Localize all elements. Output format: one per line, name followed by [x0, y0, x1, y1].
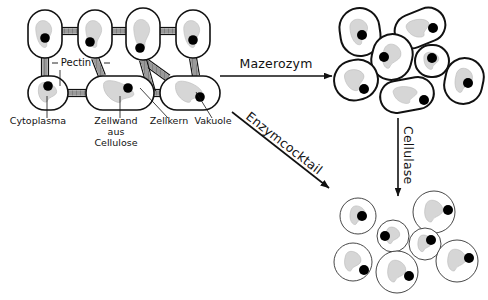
- plant-tissue-group: [28, 8, 220, 110]
- label-zellwand2: aus: [108, 126, 125, 137]
- protoplast: [377, 220, 409, 252]
- separated-cells-group: [330, 2, 488, 115]
- arrow-enzymcocktail[interactable]: Enzymcocktail: [232, 109, 329, 188]
- protoplast: [340, 198, 376, 234]
- protoplast-isolation-diagram: MazerozymEnzymcocktailCellulase PectinCy…: [0, 0, 488, 300]
- nucleus: [428, 23, 438, 33]
- label-zellkern: Zellkern: [150, 115, 188, 126]
- protoplast: [436, 240, 478, 282]
- tissue-cell: [176, 10, 210, 58]
- nucleus: [135, 43, 145, 53]
- tissue-cell: [126, 8, 160, 60]
- nucleus: [419, 95, 429, 105]
- arrow-line-enzymcocktail: [232, 112, 329, 188]
- nucleus: [380, 231, 390, 241]
- nucleus: [404, 271, 414, 281]
- label-zellwand3: Cellulose: [94, 137, 137, 148]
- nucleus: [359, 265, 369, 275]
- arrow-label-mazerozym: Mazerozym: [239, 56, 312, 71]
- tissue-cell: [160, 76, 220, 110]
- nucleus: [188, 35, 198, 45]
- diagram-canvas: MazerozymEnzymcocktailCellulase PectinCy…: [0, 0, 488, 300]
- arrow-cellulase[interactable]: Cellulase: [398, 118, 416, 196]
- tissue-cell: [78, 10, 112, 58]
- tissue-cell: [28, 10, 62, 58]
- pectin-layer: [193, 58, 196, 76]
- protoplast: [413, 191, 455, 233]
- nucleus: [379, 52, 389, 62]
- nucleus: [40, 33, 50, 43]
- nucleus: [357, 211, 367, 221]
- nucleus: [463, 78, 473, 88]
- protoplast: [334, 243, 372, 281]
- pectin-layer: [95, 58, 102, 76]
- nucleus: [443, 205, 453, 215]
- arrow-label-cellulase: Cellulase: [401, 126, 416, 185]
- nucleus: [85, 37, 95, 47]
- nucleus: [357, 30, 367, 40]
- arrow-mazerozym[interactable]: Mazerozym: [220, 56, 332, 76]
- nucleus: [359, 84, 369, 94]
- separated-cell: [378, 75, 437, 116]
- protoplasts-group: [334, 191, 478, 293]
- nucleus: [464, 253, 474, 263]
- label-vakuole: Vakuole: [194, 115, 231, 126]
- label-zellwand: Zellwand: [94, 115, 137, 126]
- protoplast: [409, 228, 441, 260]
- label-cytoplasma: Cytoplasma: [10, 115, 66, 126]
- tissue-cell: [28, 76, 68, 110]
- nucleus: [123, 83, 133, 93]
- nucleus: [426, 235, 436, 245]
- nucleus: [43, 81, 53, 91]
- protoplast: [376, 251, 418, 293]
- nucleus: [427, 53, 437, 63]
- arrow-label-enzymcocktail: Enzymcocktail: [243, 109, 325, 178]
- label-pectin: Pectin: [61, 57, 91, 68]
